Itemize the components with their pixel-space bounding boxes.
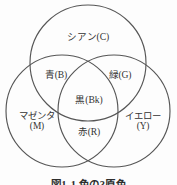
region-label-yellow-abbrev: (Y) (112, 122, 174, 132)
region-label-black: 黒(Bk) (63, 95, 115, 105)
region-label-red-text: 赤(R) (63, 127, 115, 137)
figure-caption: 図1-1 色の3原色 (0, 176, 177, 185)
region-label-cyan-text: シアン(C) (48, 32, 128, 42)
venn-diagram (0, 0, 177, 185)
region-label-black-text: 黒(Bk) (63, 95, 115, 105)
region-label-blue: 青(B) (31, 70, 81, 80)
region-label-red: 赤(R) (63, 127, 115, 137)
figure-container: シアン(C) 青(B) 緑(G) 黒(Bk) マゼンタ (M) イエロー (Y)… (0, 0, 177, 185)
region-label-yellow: イエロー (Y) (112, 112, 174, 132)
region-label-green-text: 緑(G) (95, 70, 145, 80)
region-label-magenta: マゼンタ (M) (6, 112, 68, 132)
region-label-blue-text: 青(B) (31, 70, 81, 80)
region-label-cyan: シアン(C) (48, 32, 128, 42)
region-label-green: 緑(G) (95, 70, 145, 80)
region-label-magenta-abbrev: (M) (6, 122, 68, 132)
